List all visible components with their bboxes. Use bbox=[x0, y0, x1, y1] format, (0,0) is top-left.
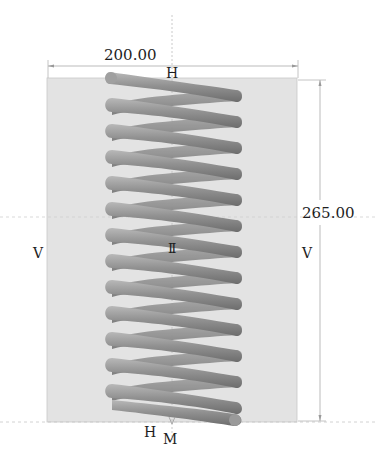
height-dimension-label[interactable]: 265.00 bbox=[302, 206, 355, 221]
top-horizontal-relation[interactable]: H bbox=[166, 66, 178, 80]
sketch-canvas[interactable]: 200.00 265.00 H V V II H M bbox=[0, 0, 378, 461]
left-vertical-relation[interactable]: V bbox=[33, 246, 43, 260]
spring-bottom-end bbox=[229, 414, 241, 426]
spring-top-end bbox=[105, 72, 117, 84]
sketch-graphics bbox=[0, 0, 378, 461]
right-vertical-relation[interactable]: V bbox=[302, 246, 312, 260]
width-dimension-label[interactable]: 200.00 bbox=[104, 48, 157, 63]
center-parallel-relation[interactable]: II bbox=[168, 242, 174, 255]
bottom-horizontal-relation[interactable]: H bbox=[144, 425, 156, 439]
bottom-midpoint-relation[interactable]: M bbox=[163, 432, 177, 446]
